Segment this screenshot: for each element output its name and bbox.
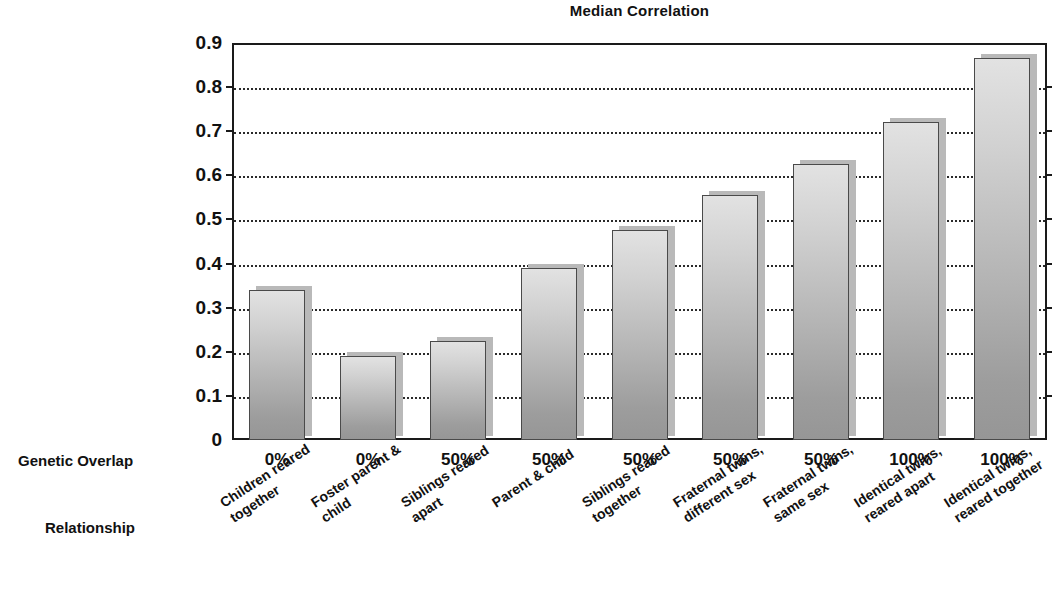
bar[interactable]	[430, 341, 486, 440]
bar[interactable]	[521, 268, 577, 440]
y-axis-tick-label: 0.2	[134, 342, 222, 361]
y-axis-tick-label: 0.7	[134, 121, 222, 140]
bar[interactable]	[793, 164, 849, 440]
y-axis-tick-mark	[1045, 351, 1052, 353]
bar[interactable]	[974, 58, 1030, 440]
bar[interactable]	[612, 230, 668, 440]
y-axis-tick-mark	[226, 86, 233, 88]
bar[interactable]	[883, 122, 939, 440]
genetic-overlap-row-header: Genetic Overlap	[18, 452, 133, 469]
y-axis-tick-label: 0.3	[134, 298, 222, 317]
bar[interactable]	[249, 290, 305, 440]
y-axis-tick-mark	[226, 351, 233, 353]
y-axis-tick-label: 0	[134, 430, 222, 449]
y-axis-tick-mark	[226, 263, 233, 265]
y-axis-tick-mark	[226, 174, 233, 176]
bar[interactable]	[340, 356, 396, 440]
y-axis-tick-mark	[226, 218, 233, 220]
y-axis-tick-label: 0.9	[134, 33, 222, 52]
relationship-row-header: Relationship	[45, 519, 135, 536]
y-axis-tick-mark	[226, 130, 233, 132]
y-axis-tick-mark	[1045, 86, 1052, 88]
y-axis-tick-mark	[1045, 174, 1052, 176]
y-axis-tick-mark	[1045, 307, 1052, 309]
y-axis-tick-mark	[226, 395, 233, 397]
y-axis-tick-mark	[226, 307, 233, 309]
y-axis-tick-label: 0.6	[134, 165, 222, 184]
y-axis-tick-mark	[1045, 130, 1052, 132]
y-axis-tick-mark	[1045, 263, 1052, 265]
y-axis-tick-label: 0.8	[134, 77, 222, 96]
y-axis-tick-label: 0.1	[134, 386, 222, 405]
bar[interactable]	[702, 195, 758, 440]
y-axis-tick-label: 0.5	[134, 209, 222, 228]
gridline	[234, 88, 1045, 90]
y-axis-tick-label: 0.4	[134, 254, 222, 273]
y-axis-tick-mark	[1045, 218, 1052, 220]
chart-title: Median Correlation	[232, 2, 1047, 19]
y-axis-tick-mark	[1045, 395, 1052, 397]
